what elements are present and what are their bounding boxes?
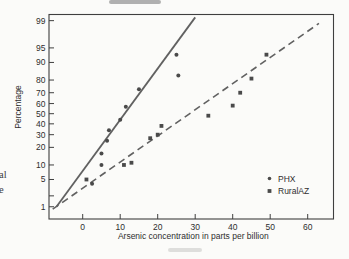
ruralaz-point: [122, 163, 126, 167]
phx-trend-line: [56, 17, 195, 206]
probability-plot-chart: 9995908070605040302010510102030405060Per…: [0, 0, 349, 259]
y-tick-label: 60: [36, 99, 46, 109]
ruralaz-point: [85, 178, 89, 182]
legend-dot-icon: [268, 177, 272, 181]
y-tick-label: 1: [41, 202, 46, 212]
ruralaz-point: [160, 124, 164, 128]
phx-point: [174, 53, 178, 57]
y-tick-label: 40: [36, 119, 46, 129]
y-tick-label: 50: [36, 109, 46, 119]
phx-point: [107, 128, 111, 132]
x-tick-label: 60: [303, 222, 313, 232]
ruralaz-point: [250, 77, 254, 81]
y-tick-label: 5: [41, 174, 46, 184]
ruralaz-point: [231, 104, 235, 108]
series-ruralaz: [85, 53, 269, 182]
y-axis: 999590807060504030201051: [36, 16, 54, 212]
legend-label: PHX: [278, 174, 296, 184]
scanned-book-figure: ale 999590807060504030201051010203040506…: [0, 0, 349, 259]
phx-point: [99, 163, 103, 167]
y-tick-label: 80: [36, 75, 46, 85]
y-tick-label: 10: [36, 160, 46, 170]
phx-point: [124, 105, 128, 109]
legend: PHXRuralAZ: [268, 174, 310, 197]
y-tick-label: 20: [36, 142, 46, 152]
x-axis: 0102030405060: [80, 214, 312, 232]
y-tick-label: 99: [36, 16, 46, 26]
x-tick-label: 0: [80, 222, 85, 232]
legend-label: RuralAZ: [278, 186, 309, 196]
series-phx: [90, 53, 180, 186]
x-axis-title: Arsenic concentration in parts per billi…: [118, 231, 269, 241]
phx-point: [90, 182, 94, 186]
legend-square-icon: [268, 189, 272, 193]
ruralaz-point: [148, 136, 152, 140]
phx-point: [105, 139, 109, 143]
ruralaz-point: [238, 91, 242, 95]
y-tick-label: 95: [36, 43, 46, 53]
y-tick-label: 30: [36, 130, 46, 140]
phx-point: [176, 74, 180, 78]
y-tick-label: 90: [36, 57, 46, 67]
phx-point: [118, 118, 122, 122]
y-tick-label: 70: [36, 88, 46, 98]
y-axis-title: Percentage: [13, 85, 23, 129]
phx-point: [137, 87, 141, 91]
ruralaz-point: [156, 133, 160, 137]
ruralaz-point: [206, 114, 210, 118]
ruralaz-point: [130, 161, 134, 165]
ruralaz-point: [265, 53, 269, 57]
phx-point: [99, 151, 103, 155]
